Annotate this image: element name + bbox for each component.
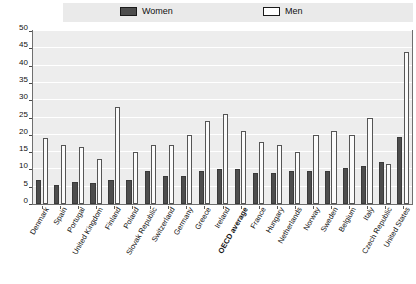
x-axis-tick-mark (114, 206, 115, 209)
x-axis-tick-mark (223, 206, 224, 209)
x-axis-label-greece: Greece (194, 206, 213, 231)
bar-men (349, 135, 354, 204)
x-axis-tick-mark (277, 206, 278, 209)
bar-group (394, 31, 412, 204)
bar-series-container (33, 31, 412, 204)
y-axis-tick-label: 45 (19, 41, 28, 49)
bar-group (159, 31, 177, 204)
x-axis-tick-mark (132, 206, 133, 209)
x-axis-labels: DenmarkSpainPortugalUnited KingdomFinlan… (0, 206, 416, 284)
y-axis: 05101520253035404550 (0, 30, 32, 205)
legend-swatch-men-icon (263, 7, 280, 16)
chart-legend: Women Men (63, 3, 413, 22)
y-axis-tick-label: 40 (19, 59, 28, 67)
x-axis-tick-mark (295, 206, 296, 209)
bar-group (213, 31, 231, 204)
bar-men (331, 131, 336, 204)
y-axis-tick-label: 35 (19, 76, 28, 84)
bar-men (295, 152, 300, 204)
y-axis-tick-label: 5 (24, 180, 28, 188)
bar-women (36, 180, 41, 204)
bar-women (163, 176, 168, 204)
x-axis-tick-mark (96, 206, 97, 209)
bar-men (259, 142, 264, 204)
bar-women (397, 137, 402, 204)
bar-men (386, 164, 391, 204)
x-axis-tick-mark (42, 206, 43, 209)
bar-men (367, 118, 372, 205)
legend-label-women: Women (142, 6, 173, 16)
bar-women (126, 180, 131, 204)
bar-women (343, 168, 348, 204)
bar-women (271, 173, 276, 204)
bar-group (123, 31, 141, 204)
bar-women (361, 166, 366, 204)
legend-item-women: Women (120, 6, 173, 16)
x-axis-tick-mark (403, 206, 404, 209)
x-axis-label-spain: Spain (52, 206, 69, 227)
bar-men (115, 107, 120, 204)
x-axis-tick-mark (259, 206, 260, 209)
bar-men (169, 145, 174, 204)
x-axis-tick-mark (313, 206, 314, 209)
bar-group (340, 31, 358, 204)
x-axis-tick-mark (78, 206, 79, 209)
bar-women (379, 162, 384, 204)
bar-group (51, 31, 69, 204)
y-axis-tick-label: 0 (24, 197, 28, 205)
bar-group (69, 31, 87, 204)
bar-group (177, 31, 195, 204)
legend-item-men: Men (263, 6, 303, 16)
bar-women (235, 169, 240, 204)
x-axis-label-denmark: Denmark (29, 206, 51, 236)
bar-women (199, 171, 204, 204)
x-axis-label-belgium: Belgium (337, 206, 357, 233)
bar-group (322, 31, 340, 204)
y-axis-tick-label: 25 (19, 111, 28, 119)
bar-group (304, 31, 322, 204)
bar-women (253, 173, 258, 204)
x-axis-tick-mark (60, 206, 61, 209)
bar-men (43, 138, 48, 204)
bar-group (250, 31, 268, 204)
legend-swatch-women-icon (120, 7, 137, 16)
bar-group (87, 31, 105, 204)
bar-women (181, 176, 186, 204)
bar-men (241, 131, 246, 204)
bar-group (141, 31, 159, 204)
bar-group (33, 31, 51, 204)
bar-men (313, 135, 318, 204)
bar-group (376, 31, 394, 204)
x-axis-tick-mark (241, 206, 242, 209)
x-axis-tick-mark (331, 206, 332, 209)
bar-women (307, 171, 312, 204)
x-axis-tick-mark (349, 206, 350, 209)
x-axis-tick-mark (204, 206, 205, 209)
x-axis-tick-mark (186, 206, 187, 209)
x-axis-tick-mark (385, 206, 386, 209)
bar-women (90, 183, 95, 204)
bar-women (145, 171, 150, 204)
bar-men (133, 152, 138, 204)
x-axis-tick-mark (150, 206, 151, 209)
bar-chart: Women Men 05101520253035404550 DenmarkSp… (0, 0, 416, 284)
bar-women (108, 180, 113, 204)
bar-men (97, 159, 102, 204)
bar-group (286, 31, 304, 204)
x-axis-tick-mark (168, 206, 169, 209)
x-axis-label-italy: Italy (362, 206, 376, 222)
y-axis-tick-label: 10 (19, 162, 28, 170)
bar-men (61, 145, 66, 204)
y-axis-tick-label: 15 (19, 145, 28, 153)
bar-women (54, 185, 59, 204)
y-axis-tick-label: 50 (19, 24, 28, 32)
bar-men (404, 52, 409, 204)
bar-women (325, 171, 330, 204)
bar-men (187, 135, 192, 204)
legend-label-men: Men (285, 6, 303, 16)
y-axis-tick-label: 20 (19, 128, 28, 136)
bar-group (268, 31, 286, 204)
bar-group (232, 31, 250, 204)
x-axis-tick-mark (367, 206, 368, 209)
bar-men (205, 121, 210, 204)
